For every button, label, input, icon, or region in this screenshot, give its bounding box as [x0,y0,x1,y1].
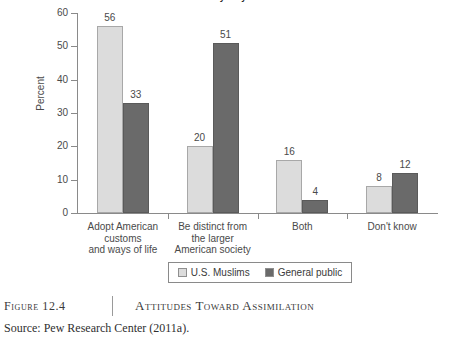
y-axis-label: Percent [35,49,46,139]
chart-legend: U.S. Muslims General public [168,262,352,283]
caption-divider [112,296,113,316]
legend-item-us-muslims: U.S. Muslims [178,267,250,278]
x-tick-1 [168,213,169,219]
bar-0-1 [123,103,149,213]
legend-swatch-icon-general-public [265,268,274,277]
y-tick-50 [71,46,78,47]
y-tick-label-60: 60 [44,8,68,18]
bar-chart: Percent 0102030405060 56332051164812 Ado… [0,0,453,256]
bar-3-0 [366,186,392,213]
source-line: Source: Pew Research Center (2011a). [4,321,189,336]
legend-label-us-muslims: U.S. Muslims [191,267,250,278]
bar-1-0 [187,146,213,213]
y-tick-10 [71,180,78,181]
y-tick-label-50: 50 [44,41,68,51]
y-tick-30 [71,113,78,114]
legend-label-general-public: General public [278,267,342,278]
y-tick-label-30: 30 [44,108,68,118]
bar-value-3-1: 12 [384,160,426,170]
x-tick-3 [347,213,348,219]
bar-value-0-1: 33 [115,90,157,100]
y-tick-0 [71,213,78,214]
bar-2-1 [302,200,328,213]
legend-swatch-icon-us-muslims [178,268,187,277]
x-tick-2 [258,213,259,219]
bar-value-0-0: 56 [89,13,131,23]
bar-0-0 [97,26,123,213]
bar-value-2-0: 16 [268,147,310,157]
figure-number: Figure 12.4 [4,299,112,314]
bar-value-2-1: 4 [294,187,336,197]
y-tick-label-10: 10 [44,175,68,185]
y-tick-label-0: 0 [44,208,68,218]
bar-value-1-1: 51 [205,30,247,40]
x-category-label-3: Don't know [337,221,447,233]
y-tick-label-20: 20 [44,141,68,151]
y-tick-label-40: 40 [44,75,68,85]
figure-caption: Figure 12.4 Attitudes Toward Assimilatio… [4,296,314,316]
y-tick-40 [71,80,78,81]
figure-title: Attitudes Toward Assimilation [135,298,314,314]
bar-3-1 [392,173,418,213]
y-tick-20 [71,146,78,147]
legend-item-general-public: General public [265,267,342,278]
plot-area: 56332051164812 [78,13,437,213]
y-tick-60 [71,13,78,14]
bar-1-1 [213,43,239,213]
